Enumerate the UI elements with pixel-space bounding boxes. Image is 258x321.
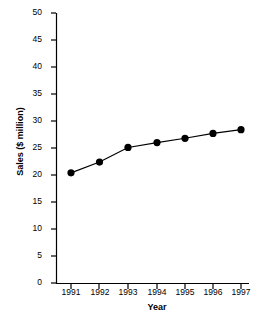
series-line-sales <box>71 130 241 173</box>
plot-area <box>0 0 258 321</box>
series-markers-sales <box>67 126 244 176</box>
data-point-1992 <box>96 158 103 165</box>
data-point-1994 <box>153 139 160 146</box>
data-point-1995 <box>181 135 188 142</box>
data-point-1993 <box>124 144 131 151</box>
x-tick-marks <box>71 284 241 289</box>
data-point-1996 <box>209 130 216 137</box>
data-point-1991 <box>67 169 74 176</box>
data-point-1997 <box>237 126 244 133</box>
y-tick-marks <box>51 13 56 283</box>
line-chart: Sales ($ million) Year 50 45 40 35 30 25… <box>0 0 258 321</box>
